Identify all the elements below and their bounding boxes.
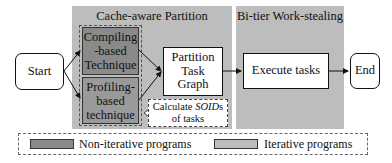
legend: Non-iterative programs Iterative program… bbox=[18, 133, 368, 155]
legend-swatch-iterative bbox=[214, 139, 258, 149]
legend-swatch-non-iterative bbox=[30, 139, 74, 149]
legend-label-iterative: Iterative programs bbox=[264, 137, 352, 152]
note-pointer bbox=[144, 110, 148, 116]
legend-label-non-iterative: Non-iterative programs bbox=[79, 137, 191, 152]
